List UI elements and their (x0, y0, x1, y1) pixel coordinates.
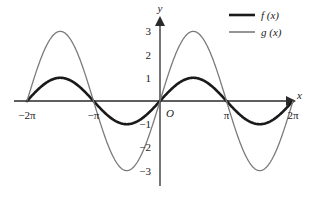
y-tick-label: −2 (139, 141, 151, 153)
legend-label-g: g (x) (261, 26, 282, 39)
x-tick-label: −2π (18, 109, 36, 121)
y-tick-label: −1 (139, 118, 151, 130)
x-tick-label: 2π (287, 109, 299, 121)
y-tick-label: 1 (146, 72, 152, 84)
y-tick-label: 3 (146, 25, 152, 37)
y-tick-label: −3 (139, 165, 151, 177)
y-axis-label: y (157, 2, 163, 14)
sine-curves-chart: x y O −2π−ππ2π 321−1−2−3 f (x) g (x) (0, 0, 312, 197)
x-axis-label: x (296, 89, 302, 101)
y-tick-label: 2 (146, 49, 152, 61)
legend-label-f: f (x) (261, 9, 279, 22)
x-tick-label: π (224, 109, 230, 121)
origin-label: O (166, 107, 174, 119)
x-tick-label: −π (88, 109, 100, 121)
